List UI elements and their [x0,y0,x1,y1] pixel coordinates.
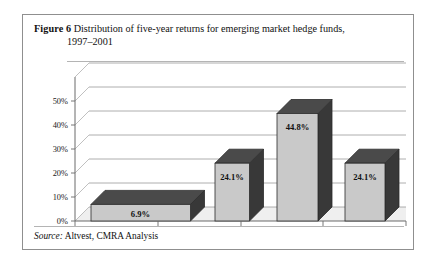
x-category-label-1: 0% –10% [183,229,216,230]
x-category-label-2: 10% – 20% [262,229,301,230]
bar-value-label: 24.1% [220,172,244,182]
figure-caption: Figure 6 Distribution of five-year retur… [34,22,400,48]
y-tick-label-10: 10% [53,193,68,202]
bar-series-item[interactable]: 24.1% [215,149,264,221]
perspective-depth-lines [75,63,89,221]
y-axis-ticks [71,101,75,221]
figure-container: Figure 6 Distribution of five-year retur… [22,14,414,250]
bar-series-item[interactable]: 24.1% [345,149,399,221]
figure-label: Figure 6 [34,23,71,34]
x-category-label-0: < 0% [108,229,126,230]
bar-value-label: 24.1% [353,172,377,182]
bar-value-label: 44.8% [286,122,310,132]
bar-value-label: 6.9% [131,209,150,219]
y-tick-label-50: 50% [53,97,68,106]
figure-title-line1: Distribution of five-year returns for em… [74,23,345,34]
figure-title-line2: 1997–2001 [67,35,400,48]
source-divider [34,226,404,227]
y-tick-label-40: 40% [53,121,68,130]
x-category-label-3: >20% [354,229,374,230]
bar-chart: 0% 10% 20% 30% 40% 50% 6.9% 24.1% [23,55,415,230]
y-tick-label-0: 0% [57,217,68,226]
source-value: Altvest, CMRA Analysis [63,231,158,241]
source-label: Source: [34,231,63,241]
source-note: Source: Altvest, CMRA Analysis [34,231,158,241]
bar-series-item[interactable]: 44.8% [277,100,332,222]
bar-series-item[interactable]: 6.9% [91,190,205,221]
y-tick-label-20: 20% [53,169,68,178]
y-tick-label-30: 30% [53,145,68,154]
